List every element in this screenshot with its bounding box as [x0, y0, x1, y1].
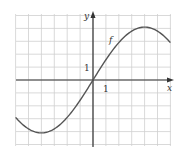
axes — [16, 11, 174, 147]
function-graph: x y f 1 1 — [0, 0, 184, 154]
x-tick-label: 1 — [103, 84, 109, 94]
y-axis-label: y — [83, 11, 90, 21]
y-tick-label: 1 — [84, 63, 90, 73]
y-axis-arrow-icon — [91, 11, 96, 18]
curve-label: f — [108, 35, 114, 45]
x-axis-label: x — [167, 83, 172, 93]
